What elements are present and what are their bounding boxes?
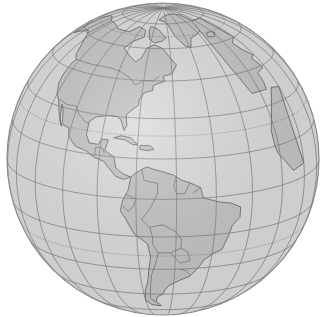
globe-svg (0, 0, 325, 317)
globe-map (0, 0, 325, 317)
